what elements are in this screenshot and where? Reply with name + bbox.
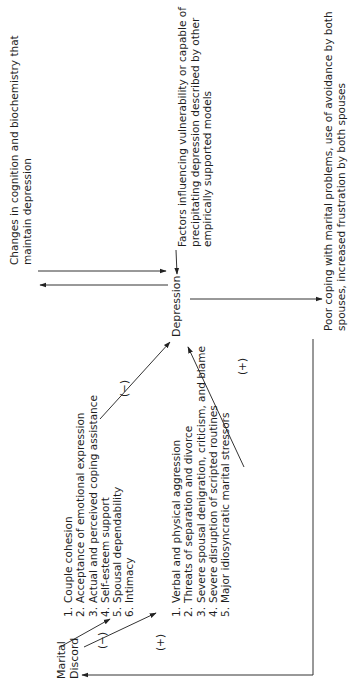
marital-discord-line2: Discord bbox=[69, 638, 82, 679]
arrow-factors-to-depression bbox=[176, 250, 177, 274]
factors-line2: precipitating depression described by ot… bbox=[189, 7, 202, 247]
sign-stressor-to-depression: (+) bbox=[236, 358, 248, 375]
node-marital-discord: Marital Discord bbox=[56, 638, 81, 679]
poor-coping-line2: spouses, increased frustration by both s… bbox=[335, 11, 348, 331]
marital-stressors-list: 1.Verbal and physical aggression 2.Threa… bbox=[170, 346, 231, 617]
list-item: 5.Major idiosyncratic marital stressors bbox=[219, 346, 231, 617]
arrow-discord-to-stressor-list bbox=[84, 613, 156, 647]
changes-line1: Changes in cognition and biochemistry th… bbox=[8, 35, 21, 265]
factors-line3: empirically supported models bbox=[201, 7, 214, 247]
list-item: 2.Threats of separation and divorce bbox=[182, 346, 194, 617]
marital-discord-line1: Marital bbox=[56, 638, 69, 679]
factors-line1: Factors influencing vulnerability or cap… bbox=[176, 7, 189, 247]
node-depression: Depression bbox=[171, 276, 184, 338]
list-item: 1.Verbal and physical aggression bbox=[170, 346, 182, 617]
list-item: 5.Spousal dependability bbox=[111, 395, 123, 617]
list-item: 1.Couple cohesion bbox=[62, 395, 74, 617]
sign-discord-to-stressor: (+) bbox=[154, 634, 166, 651]
changes-line2: maintain depression bbox=[21, 35, 34, 265]
sign-discord-to-protective: (−) bbox=[96, 632, 108, 649]
poor-coping-line1: Poor coping with marital problems, use o… bbox=[322, 11, 335, 331]
list-item: 6.Intimacy bbox=[123, 395, 135, 617]
protective-factors-list: 1.Couple cohesion 2.Acceptance of emotio… bbox=[62, 395, 136, 617]
node-changes-in-cognition: Changes in cognition and biochemistry th… bbox=[8, 35, 33, 265]
list-item: 4.Self-esteem support bbox=[99, 395, 111, 617]
depression-label: Depression bbox=[170, 276, 183, 338]
node-poor-coping: Poor coping with marital problems, use o… bbox=[322, 11, 347, 331]
sign-protective-to-depression: (−) bbox=[118, 380, 130, 397]
list-item: 2.Acceptance of emotional expression bbox=[74, 395, 86, 617]
marital-discord-depression-diagram: Marital Discord Depression Changes in co… bbox=[0, 0, 355, 687]
list-item: 3.Actual and perceived coping assistance bbox=[87, 395, 99, 617]
node-factors-vulnerability: Factors influencing vulnerability or cap… bbox=[176, 7, 214, 247]
list-item: 3.Severe spousal denigration, criticism,… bbox=[195, 346, 207, 617]
list-item: 4.Severe disruption of scripted routines bbox=[207, 346, 219, 617]
